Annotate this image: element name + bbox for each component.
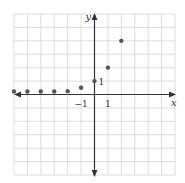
x-axis-label: x	[171, 97, 177, 108]
coordinate-plane: x y −111	[0, 0, 185, 183]
data-point	[25, 89, 29, 93]
y-axis-arrow-down-icon	[92, 170, 98, 177]
x-tick-label: −1	[74, 99, 87, 109]
data-point	[12, 89, 16, 93]
data-point	[65, 89, 69, 93]
data-point	[92, 79, 96, 83]
data-point	[119, 39, 123, 43]
data-point	[106, 65, 110, 69]
data-point	[52, 89, 56, 93]
axes	[14, 13, 176, 177]
y-tick-label: 1	[99, 77, 105, 87]
y-axis-label: y	[85, 11, 92, 22]
x-tick-label: 1	[105, 99, 111, 109]
data-point	[79, 86, 83, 90]
data-point	[39, 89, 43, 93]
